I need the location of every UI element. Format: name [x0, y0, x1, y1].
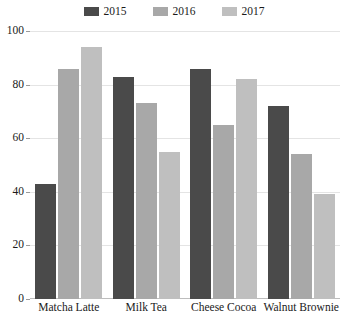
bar-2017[interactable]	[314, 194, 335, 299]
y-tick-mark	[26, 299, 30, 300]
legend-label-2016: 2016	[173, 6, 196, 18]
bar-2017[interactable]	[236, 79, 257, 299]
bar-2017[interactable]	[81, 47, 102, 299]
legend-swatch-2016	[153, 7, 168, 16]
bar-2016[interactable]	[291, 154, 312, 299]
x-axis-labels: Matcha LatteMilk TeaCheese CocoaWalnut B…	[30, 301, 340, 314]
bar-2015[interactable]	[190, 69, 211, 299]
category-label: Walnut Brownie	[263, 301, 341, 314]
legend-label-2015: 2015	[104, 6, 127, 18]
y-tick-label: 100	[7, 25, 24, 37]
y-tick-label: 80	[13, 79, 25, 91]
legend-item-2016[interactable]: 2016	[153, 6, 196, 18]
y-tick-label: 20	[13, 240, 25, 252]
legend-swatch-2017	[222, 7, 237, 16]
bar-group	[30, 31, 108, 299]
bar-group	[185, 31, 263, 299]
y-tick-label: 0	[18, 293, 24, 305]
category-label: Milk Tea	[108, 301, 186, 314]
bar-group	[108, 31, 186, 299]
category-label: Cheese Cocoa	[185, 301, 263, 314]
legend-item-2017[interactable]: 2017	[222, 6, 265, 18]
legend-swatch-2015	[84, 7, 99, 16]
bar-2017[interactable]	[159, 152, 180, 299]
bar-2016[interactable]	[136, 103, 157, 299]
bar-2015[interactable]	[35, 184, 56, 299]
y-tick-label: 40	[13, 186, 25, 198]
bar-chart: 2015 2016 2017 020406080100 Matcha Latte…	[0, 0, 348, 327]
bar-2016[interactable]	[213, 125, 234, 299]
y-tick-label: 60	[13, 132, 25, 144]
bar-2016[interactable]	[58, 69, 79, 299]
chart-legend: 2015 2016 2017	[0, 6, 348, 18]
bar-groups	[30, 31, 340, 299]
plot-area: 020406080100	[30, 31, 340, 299]
bar-2015[interactable]	[113, 77, 134, 299]
bar-group	[263, 31, 341, 299]
category-label: Matcha Latte	[30, 301, 108, 314]
legend-item-2015[interactable]: 2015	[84, 6, 127, 18]
bar-2015[interactable]	[268, 106, 289, 299]
legend-label-2017: 2017	[242, 6, 265, 18]
